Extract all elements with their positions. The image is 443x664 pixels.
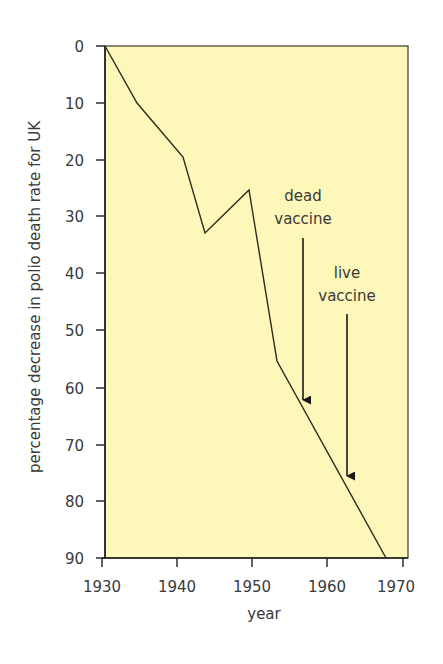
x-tick-label: 1940 <box>158 578 196 596</box>
y-tick-label: 70 <box>65 437 84 455</box>
y-tick-label: 60 <box>65 380 84 398</box>
x-axis-title: year <box>247 605 281 623</box>
x-axis-tick-labels: 1930 1940 1950 1960 1970 <box>83 578 415 596</box>
y-tick-label: 20 <box>65 152 84 170</box>
x-tick-label: 1950 <box>233 578 271 596</box>
y-axis-title: percentage decrease in polio death rate … <box>26 120 44 473</box>
annotation-label-dead: dead <box>284 187 321 205</box>
y-tick-label: 0 <box>74 38 84 56</box>
y-tick-label: 40 <box>65 265 84 283</box>
y-tick-label: 50 <box>65 322 84 340</box>
x-tick-label: 1960 <box>308 578 346 596</box>
x-tick-label: 1970 <box>377 578 415 596</box>
annotation-label-live-vaccine: vaccine <box>318 287 375 305</box>
y-axis-ticks <box>96 46 105 558</box>
polio-death-rate-chart: 0 10 20 30 40 50 60 70 80 90 1930 1940 1… <box>0 0 443 664</box>
y-tick-label: 10 <box>65 95 84 113</box>
y-tick-label: 90 <box>65 550 84 568</box>
y-tick-label: 80 <box>65 493 84 511</box>
y-axis-tick-labels: 0 10 20 30 40 50 60 70 80 90 <box>65 38 84 568</box>
y-tick-label: 30 <box>65 208 84 226</box>
x-axis-ticks <box>102 558 403 567</box>
annotation-label-live: live <box>334 264 360 282</box>
x-tick-label: 1930 <box>83 578 121 596</box>
annotation-label-dead-vaccine: vaccine <box>274 210 331 228</box>
